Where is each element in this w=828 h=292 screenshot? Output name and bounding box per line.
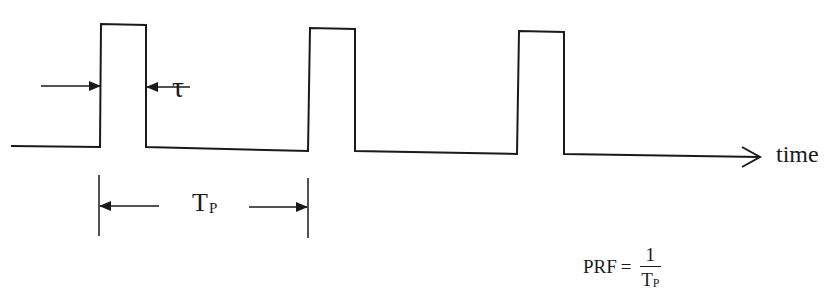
prf-denominator-main: T — [641, 269, 653, 290]
prf-denominator-subscript: P — [653, 276, 660, 290]
time-axis-label: time — [776, 141, 819, 168]
pulse-width-label: τ — [172, 70, 184, 104]
prf-formula-denominator: TP — [641, 267, 659, 289]
waveform-canvas — [0, 0, 828, 292]
prf-formula-equals: = — [621, 256, 632, 278]
period-label-subscript: P — [209, 200, 217, 216]
prf-formula-numerator: 1 — [640, 245, 662, 267]
period-label-main: T — [192, 188, 208, 217]
prf-formula-fraction: 1 TP — [640, 245, 662, 289]
prf-formula-lhs: PRF — [583, 256, 617, 278]
prf-formula: PRF = 1 TP — [583, 245, 661, 289]
period-label: TP — [192, 188, 217, 218]
pulse-waveform — [11, 24, 760, 157]
pulse-train-diagram: τ time TP PRF = 1 TP — [0, 0, 828, 292]
